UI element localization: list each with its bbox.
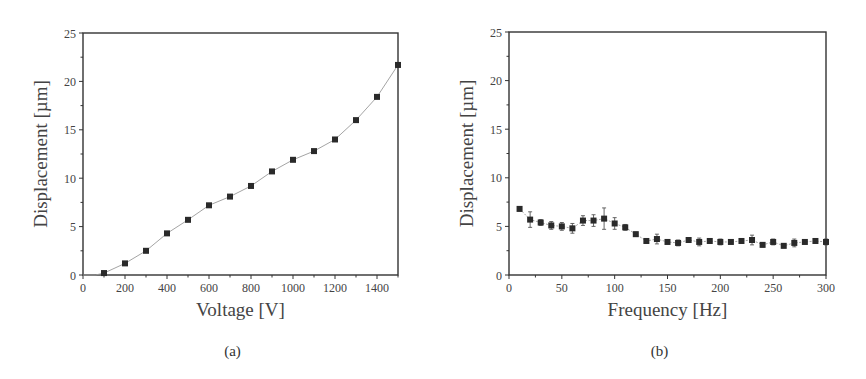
data-point-marker xyxy=(633,231,639,237)
y-axis-title: Displacement [µm] xyxy=(30,80,51,228)
y-tick-label: 20 xyxy=(64,75,76,89)
data-point-marker xyxy=(612,220,618,226)
y-tick-label: 10 xyxy=(64,172,76,186)
data-point-marker xyxy=(622,224,628,230)
x-tick-label: 300 xyxy=(817,281,835,295)
x-tick-label: 800 xyxy=(242,281,260,295)
data-point-marker xyxy=(654,236,660,242)
data-point-marker xyxy=(269,168,275,174)
data-point-marker xyxy=(185,217,191,223)
data-point-marker xyxy=(696,239,702,245)
data-point-marker xyxy=(707,238,713,244)
data-point-marker xyxy=(738,238,744,244)
x-tick-label: 150 xyxy=(659,281,677,295)
figure-caption: (a) xyxy=(224,343,241,360)
x-axis-title: Voltage [V] xyxy=(196,299,285,320)
data-point-marker xyxy=(353,117,359,123)
y-tick-label: 20 xyxy=(490,74,502,88)
x-tick-label: 600 xyxy=(200,281,218,295)
data-point-marker xyxy=(395,62,401,68)
figure: 02004006008001000120014000510152025Volta… xyxy=(0,0,866,379)
data-point-marker xyxy=(812,238,818,244)
data-point-marker xyxy=(311,148,317,154)
data-point-marker xyxy=(643,238,649,244)
data-point-marker xyxy=(227,194,233,200)
y-tick-label: 5 xyxy=(496,220,502,234)
data-point-marker xyxy=(559,223,565,229)
data-point-marker xyxy=(601,216,607,222)
x-tick-label: 250 xyxy=(764,281,782,295)
y-tick-label: 0 xyxy=(496,269,502,283)
y-tick-label: 15 xyxy=(490,123,502,137)
data-point-marker xyxy=(164,230,170,236)
data-point-marker xyxy=(548,222,554,228)
y-tick-label: 5 xyxy=(70,220,76,234)
data-point-marker xyxy=(823,239,829,245)
x-tick-label: 1400 xyxy=(365,281,389,295)
y-tick-label: 10 xyxy=(490,171,502,185)
data-point-marker xyxy=(374,94,380,100)
x-tick-label: 400 xyxy=(158,281,176,295)
x-axis-title: Frequency [Hz] xyxy=(608,299,728,320)
y-tick-label: 15 xyxy=(64,123,76,137)
x-tick-label: 200 xyxy=(116,281,134,295)
data-point-marker xyxy=(717,239,723,245)
x-tick-label: 1000 xyxy=(281,281,305,295)
data-point-marker xyxy=(728,239,734,245)
data-point-marker xyxy=(802,239,808,245)
series-line xyxy=(83,65,398,275)
figure-caption: (b) xyxy=(651,343,669,360)
data-point-marker xyxy=(248,183,254,189)
y-tick-label: 25 xyxy=(64,27,76,41)
x-tick-label: 0 xyxy=(80,281,86,295)
data-point-marker xyxy=(781,243,787,249)
x-tick-label: 100 xyxy=(606,281,624,295)
data-point-marker xyxy=(569,225,575,231)
y-axis-title: Displacement [µm] xyxy=(456,80,477,228)
data-point-marker xyxy=(760,242,766,248)
data-point-marker xyxy=(206,202,212,208)
data-point-marker xyxy=(770,239,776,245)
series-line xyxy=(520,209,826,246)
data-point-marker xyxy=(580,218,586,224)
data-point-marker xyxy=(686,237,692,243)
data-point-marker xyxy=(538,220,544,226)
data-point-marker xyxy=(332,136,338,142)
data-point-marker xyxy=(122,260,128,266)
plot-frame xyxy=(83,33,398,275)
data-point-marker xyxy=(517,206,523,212)
data-point-marker xyxy=(665,239,671,245)
x-tick-label: 1200 xyxy=(323,281,347,295)
chart-a-voltage: 02004006008001000120014000510152025Volta… xyxy=(30,27,401,361)
data-point-marker xyxy=(591,218,597,224)
data-point-marker xyxy=(101,270,107,276)
x-tick-label: 50 xyxy=(556,281,568,295)
x-tick-label: 0 xyxy=(506,281,512,295)
y-tick-label: 25 xyxy=(490,26,502,40)
data-point-marker xyxy=(791,240,797,246)
chart-b-frequency: 0501001502002503000510152025Frequency [H… xyxy=(456,26,835,361)
data-point-marker xyxy=(527,217,533,223)
x-tick-label: 200 xyxy=(711,281,729,295)
plot-frame xyxy=(509,32,826,275)
data-point-marker xyxy=(143,248,149,254)
data-point-marker xyxy=(675,240,681,246)
y-tick-label: 0 xyxy=(70,269,76,283)
data-point-marker xyxy=(749,237,755,243)
data-point-marker xyxy=(290,157,296,163)
